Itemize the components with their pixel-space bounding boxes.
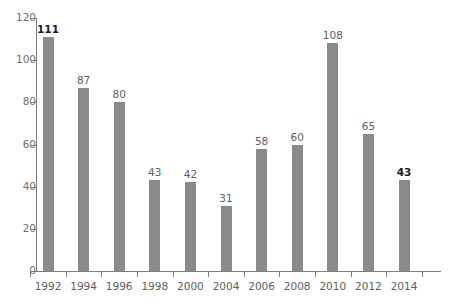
bar [221,206,232,271]
bar-value-label: 42 [168,168,212,180]
y-axis-tick-label-wrap: 80 [0,102,36,103]
bar-value-label: 111 [26,23,70,35]
x-axis-tick [422,272,423,277]
bar [256,149,267,271]
y-axis-tick-label: 100 [8,54,36,65]
y-axis-tick-label-wrap: 60 [0,145,36,146]
y-axis-tick-label: 40 [8,181,36,192]
bar-value-label: 43 [382,166,426,178]
bar [327,43,338,271]
bar [43,37,54,271]
y-axis-tick-label: 60 [8,139,36,150]
bar [399,180,410,271]
y-axis-line [36,18,37,272]
bar [292,145,303,272]
bar [149,180,160,271]
y-axis-tick-label-wrap: 40 [0,187,36,188]
bar-value-label: 87 [62,74,106,86]
bar-chart: 020406080100120 111878043423158601086543… [0,0,451,305]
y-axis-tick-label: 120 [8,12,36,23]
x-axis-tick [315,272,316,277]
x-axis-tick [386,272,387,277]
bar [363,134,374,271]
y-axis-tick-label: 20 [8,223,36,234]
x-axis-tick [30,272,31,277]
x-axis-tick [244,272,245,277]
x-axis-tick [351,272,352,277]
bar-value-label: 31 [204,192,248,204]
bar-value-label: 80 [97,88,141,100]
y-axis-tick-label-wrap: 20 [0,229,36,230]
bar [114,102,125,271]
x-axis-tick [208,272,209,277]
x-axis-tick [66,272,67,277]
x-axis-tick-label: 2014 [382,280,426,292]
x-axis-tick [137,272,138,277]
x-axis-tick [173,272,174,277]
y-axis-tick-label: 0 [8,265,36,276]
y-axis-tick-label: 80 [8,96,36,107]
y-axis-tick-label-wrap: 100 [0,60,36,61]
x-axis-line [36,271,441,272]
bar [78,88,89,271]
y-axis-tick-label-wrap: 120 [0,18,36,19]
x-axis-tick [101,272,102,277]
bar-value-label: 60 [275,131,319,143]
bar [185,182,196,271]
x-axis-tick [279,272,280,277]
bar-value-label: 65 [346,120,390,132]
bar-value-label: 108 [311,29,355,41]
